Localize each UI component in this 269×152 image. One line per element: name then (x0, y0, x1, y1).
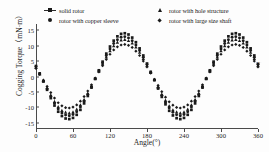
y-tick-label: -15 (0, 119, 34, 126)
watermark: ··· (251, 58, 265, 68)
series-2 (34, 38, 259, 115)
x-tick-mark (184, 129, 185, 132)
legend-marker-diamond-icon (154, 17, 166, 24)
legend-marker-circle-icon (44, 17, 56, 24)
series-3 (34, 43, 259, 110)
legend-entry-rotor-with-hole-structure: rotor with hole structure (154, 5, 266, 15)
x-tick-mark (258, 129, 259, 132)
chart-figure: solid rotor rotor with hole structure ro… (0, 0, 269, 152)
legend-marker-square-icon (44, 7, 56, 14)
x-tick-mark (221, 129, 222, 132)
x-axis-label: Angle(°) (36, 138, 258, 147)
x-tick-mark (147, 129, 148, 132)
legend-marker-triangle-icon (154, 7, 166, 14)
legend-label: rotor with hole structure (169, 6, 228, 15)
series-1 (35, 35, 260, 117)
legend-label: solid rotor (59, 6, 84, 15)
chart-legend: solid rotor rotor with hole structure ro… (44, 5, 266, 25)
legend-entry-solid-rotor: solid rotor (44, 5, 154, 15)
x-tick-mark (110, 129, 111, 132)
plot-area (36, 24, 258, 129)
series-0 (35, 32, 260, 121)
x-tick-mark (36, 129, 37, 132)
x-tick-mark (73, 129, 74, 132)
y-axis-label: Cogging Torque（mN·m） (13, 0, 24, 114)
series-layer (36, 24, 258, 129)
